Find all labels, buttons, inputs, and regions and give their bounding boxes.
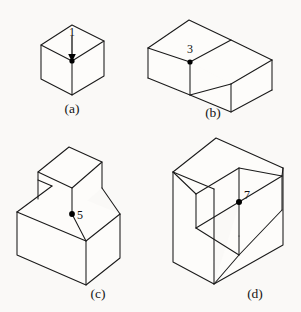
figure-a-caption: (a) — [65, 101, 80, 116]
figure-c-stepped-block: 5 (c) — [17, 147, 120, 301]
figure-c-caption: (c) — [91, 286, 106, 301]
figure-a-vertex-dot — [69, 58, 74, 63]
figure-a-cube: 1 (a) — [41, 25, 104, 116]
figure-b-l-block: 3 (b) — [148, 20, 272, 120]
figure-c-vertex-dot — [69, 211, 75, 217]
figure-d-caption: (d) — [247, 286, 263, 301]
figure-c-vertex-label: 5 — [77, 208, 83, 222]
figure-d-notched-cube: 7 (d) — [173, 138, 283, 301]
figure-b-caption: (b) — [205, 105, 221, 120]
figure-b-vertex-label: 3 — [187, 42, 193, 56]
figure-d-vertex-dot — [236, 199, 242, 205]
figure-b-vertex-dot — [187, 59, 192, 64]
figure-plate: 1 (a) 3 (b) — [0, 0, 301, 312]
figure-a-vertex-label: 1 — [69, 25, 75, 39]
figures-svg: 1 (a) 3 (b) — [0, 0, 301, 312]
figure-d-vertex-label: 7 — [244, 188, 250, 202]
